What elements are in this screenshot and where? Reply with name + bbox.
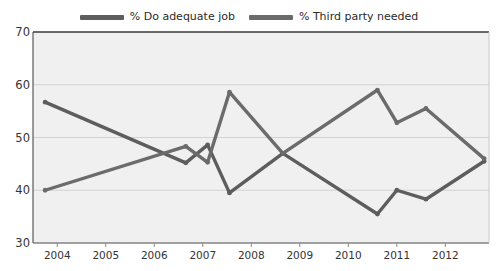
x-tick-label: 2006	[131, 249, 177, 261]
x-tick-label: 2010	[325, 249, 371, 261]
x-tick-label: 2011	[374, 249, 420, 261]
x-tick-label: 2012	[422, 249, 468, 261]
chart-container: % Do adequate job % Third party needed 3…	[0, 0, 498, 271]
x-tick-label: 2007	[180, 249, 226, 261]
x-tick-label: 2008	[228, 249, 274, 261]
x-tick-label: 2009	[277, 249, 323, 261]
x-axis-labels: 200420052006200720082009201020112012	[0, 0, 498, 271]
x-tick-label: 2004	[34, 249, 80, 261]
plot-area: 3040506070 20042005200620072008200920102…	[0, 0, 498, 271]
x-tick-label: 2005	[83, 249, 129, 261]
